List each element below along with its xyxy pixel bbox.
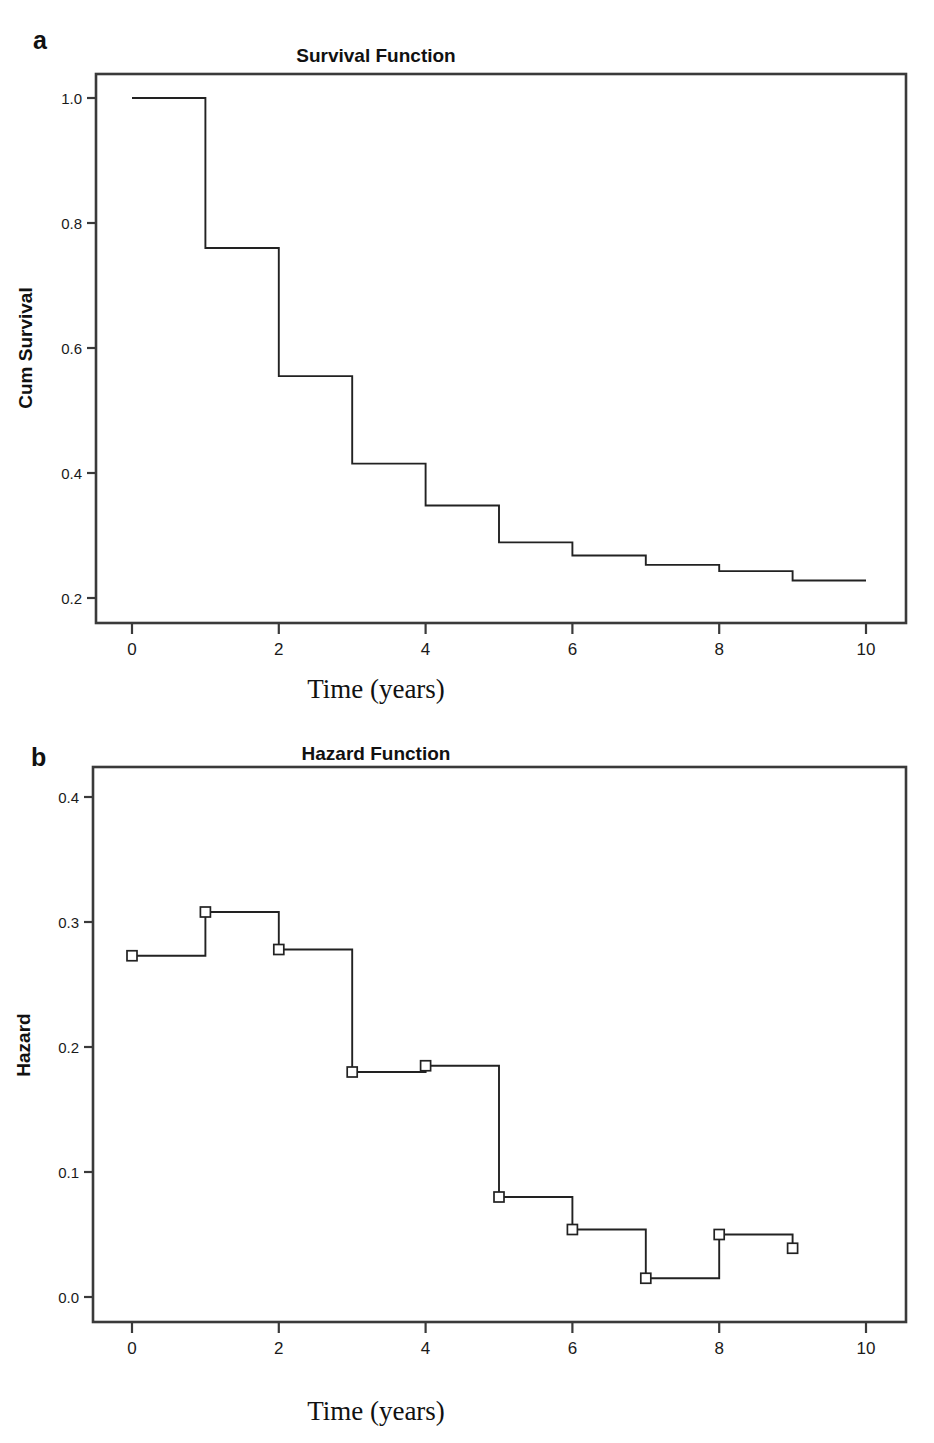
- panel-letter-a: a: [33, 26, 47, 55]
- hazard-data-point-marker: [641, 1273, 651, 1283]
- hazard-chart-title: Hazard Function: [302, 743, 451, 764]
- hazard-y-tick-label: 0.2: [58, 1039, 79, 1056]
- hazard-x-axis-title: Time (years): [307, 1396, 445, 1426]
- survival-y-tick-label: 0.8: [61, 215, 82, 232]
- hazard-x-tick-label: 6: [568, 1339, 577, 1358]
- survival-y-tick-label: 0.4: [61, 465, 82, 482]
- hazard-data-point-marker: [127, 951, 137, 961]
- survival-x-tick-label: 6: [568, 640, 577, 659]
- hazard-axis-ticks: 0.00.10.20.30.40246810: [58, 789, 875, 1359]
- survival-y-tick-label: 0.2: [61, 590, 82, 607]
- hazard-data-point-marker: [347, 1067, 357, 1077]
- hazard-data-point-marker: [200, 907, 210, 917]
- hazard-data-point-marker: [714, 1230, 724, 1240]
- hazard-y-tick-label: 0.3: [58, 914, 79, 931]
- hazard-markers: [127, 907, 798, 1283]
- survival-function-figure: a Survival Function Cum Survival Time (y…: [0, 0, 934, 730]
- hazard-y-tick-label: 0.0: [58, 1289, 79, 1306]
- hazard-y-tick-label: 0.4: [58, 789, 79, 806]
- survival-plot-frame: [96, 74, 906, 623]
- survival-x-tick-label: 8: [714, 640, 723, 659]
- survival-x-tick-label: 2: [274, 640, 283, 659]
- survival-step-curve: [132, 98, 866, 581]
- survival-y-tick-label: 0.6: [61, 340, 82, 357]
- hazard-x-tick-label: 0: [127, 1339, 136, 1358]
- hazard-data-point-marker: [274, 945, 284, 955]
- hazard-y-axis-title: Hazard: [13, 1013, 34, 1076]
- hazard-step-curve: [132, 912, 793, 1278]
- hazard-function-chart: Hazard FunctionHazardTime (years)0.00.10…: [0, 730, 934, 1443]
- hazard-x-tick-label: 2: [274, 1339, 283, 1358]
- hazard-data-point-marker: [494, 1192, 504, 1202]
- hazard-x-tick-label: 8: [714, 1339, 723, 1358]
- survival-x-axis-title: Time (years): [307, 674, 445, 704]
- survival-axis-ticks: 0.20.40.60.81.00246810: [61, 90, 875, 660]
- survival-x-tick-label: 4: [421, 640, 430, 659]
- hazard-function-figure: b Hazard FunctionHazardTime (years)0.00.…: [0, 730, 934, 1443]
- survival-y-axis-title: Cum Survival: [15, 287, 36, 408]
- survival-function-chart: Survival Function Cum Survival Time (yea…: [0, 0, 934, 730]
- hazard-data-point-marker: [421, 1061, 431, 1071]
- survival-x-tick-label: 0: [127, 640, 136, 659]
- hazard-x-tick-label: 10: [857, 1339, 876, 1358]
- hazard-plot-frame: [93, 767, 906, 1322]
- hazard-y-tick-label: 0.1: [58, 1164, 79, 1181]
- survival-chart-title: Survival Function: [296, 45, 455, 66]
- hazard-data-point-marker: [567, 1225, 577, 1235]
- hazard-x-tick-label: 4: [421, 1339, 430, 1358]
- hazard-data-point-marker: [788, 1243, 798, 1253]
- survival-y-tick-label: 1.0: [61, 90, 82, 107]
- panel-letter-b: b: [31, 743, 46, 772]
- survival-x-tick-label: 10: [857, 640, 876, 659]
